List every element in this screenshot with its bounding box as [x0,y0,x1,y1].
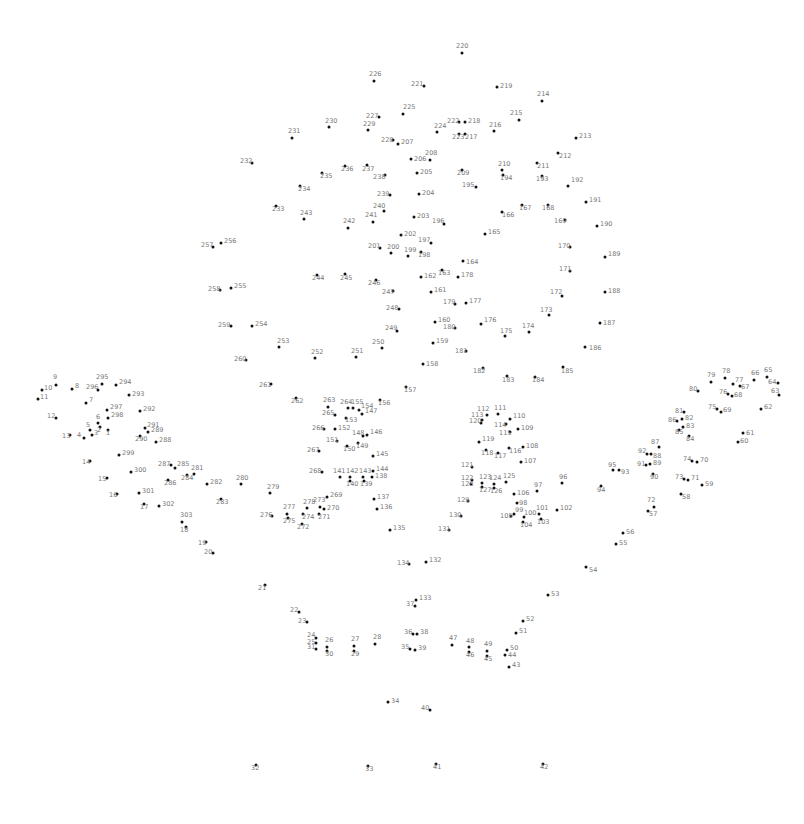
puzzle-dot[interactable] [373,498,376,501]
puzzle-dot[interactable] [486,650,489,653]
puzzle-dot[interactable] [314,357,317,360]
puzzle-dot[interactable] [410,158,413,161]
puzzle-dot[interactable] [604,291,607,294]
puzzle-dot[interactable] [520,461,523,464]
puzzle-dot[interactable] [389,529,392,532]
puzzle-dot[interactable] [286,513,289,516]
puzzle-dot[interactable] [55,384,58,387]
puzzle-dot[interactable] [742,432,745,435]
puzzle-dot[interactable] [505,481,508,484]
puzzle-dot[interactable] [475,186,478,189]
puzzle-dot[interactable] [422,363,425,366]
puzzle-dot[interactable] [420,276,423,279]
puzzle-dot[interactable] [484,233,487,236]
puzzle-dot[interactable] [478,441,481,444]
puzzle-dot[interactable] [414,649,417,652]
puzzle-dot[interactable] [366,434,369,437]
puzzle-dot[interactable] [334,428,337,431]
puzzle-dot[interactable] [465,302,468,305]
puzzle-dot[interactable] [387,701,390,704]
puzzle-dot[interactable] [251,325,254,328]
puzzle-dot[interactable] [501,169,504,172]
puzzle-dot[interactable] [101,383,104,386]
puzzle-dot[interactable] [687,479,690,482]
puzzle-dot[interactable] [509,418,512,421]
puzzle-dot[interactable] [497,413,500,416]
puzzle-dot[interactable] [381,347,384,350]
puzzle-dot[interactable] [372,470,375,473]
puzzle-dot[interactable] [513,493,516,496]
puzzle-dot[interactable] [85,402,88,405]
puzzle-dot[interactable] [429,159,432,162]
puzzle-dot[interactable] [461,52,464,55]
puzzle-dot[interactable] [541,100,544,103]
puzzle-dot[interactable] [416,633,419,636]
puzzle-dot[interactable] [328,126,331,129]
puzzle-dot[interactable] [681,418,684,421]
puzzle-dot[interactable] [596,225,599,228]
puzzle-dot[interactable] [518,119,521,122]
puzzle-dot[interactable] [372,455,375,458]
puzzle-dot[interactable] [434,321,437,324]
puzzle-dot[interactable] [181,521,184,524]
puzzle-dot[interactable] [584,346,587,349]
puzzle-dot[interactable] [323,508,326,511]
puzzle-dot[interactable] [522,620,525,623]
puzzle-dot[interactable] [230,287,233,290]
puzzle-dot[interactable] [766,376,769,379]
puzzle-dot[interactable] [306,507,309,510]
puzzle-dot[interactable] [480,323,483,326]
puzzle-dot[interactable] [147,431,150,434]
puzzle-dot[interactable] [710,381,713,384]
puzzle-dot[interactable] [115,384,118,387]
puzzle-dot[interactable] [269,492,272,495]
puzzle-dot[interactable] [486,414,489,417]
puzzle-dot[interactable] [547,594,550,597]
puzzle-dot[interactable] [374,643,377,646]
puzzle-dot[interactable] [138,492,141,495]
puzzle-dot[interactable] [415,599,418,602]
puzzle-dot[interactable] [107,417,110,420]
puzzle-dot[interactable] [653,506,656,509]
puzzle-dot[interactable] [240,483,243,486]
puzzle-dot[interactable] [585,566,588,569]
puzzle-dot[interactable] [522,446,525,449]
puzzle-dot[interactable] [326,496,329,499]
puzzle-dot[interactable] [130,471,133,474]
puzzle-dot[interactable] [493,483,496,486]
puzzle-dot[interactable] [416,172,419,175]
puzzle-dot[interactable] [567,185,570,188]
puzzle-dot[interactable] [128,394,131,397]
puzzle-dot[interactable] [430,291,433,294]
puzzle-dot[interactable] [349,476,352,479]
puzzle-dot[interactable] [352,407,355,410]
puzzle-dot[interactable] [493,130,496,133]
puzzle-dot[interactable] [303,218,306,221]
puzzle-dot[interactable] [413,216,416,219]
puzzle-dot[interactable] [155,441,158,444]
puzzle-dot[interactable] [326,646,329,649]
puzzle-dot[interactable] [504,654,507,657]
puzzle-dot[interactable] [353,645,356,648]
puzzle-dot[interactable] [83,437,86,440]
puzzle-dot[interactable] [760,408,763,411]
puzzle-dot[interactable] [615,543,618,546]
puzzle-dot[interactable] [367,129,370,132]
puzzle-dot[interactable] [464,121,467,124]
puzzle-dot[interactable] [106,409,109,412]
puzzle-dot[interactable] [496,86,499,89]
puzzle-dot[interactable] [436,131,439,134]
puzzle-dot[interactable] [604,256,607,259]
puzzle-dot[interactable] [97,422,100,425]
puzzle-dot[interactable] [468,646,471,649]
puzzle-dot[interactable] [362,476,365,479]
puzzle-dot[interactable] [462,260,465,263]
puzzle-dot[interactable] [528,331,531,334]
puzzle-dot[interactable] [649,463,652,466]
puzzle-dot[interactable] [400,234,403,237]
puzzle-dot[interactable] [278,346,281,349]
puzzle-dot[interactable] [361,413,364,416]
puzzle-dot[interactable] [291,137,294,140]
puzzle-dot[interactable] [515,632,518,635]
puzzle-dot[interactable] [701,484,704,487]
